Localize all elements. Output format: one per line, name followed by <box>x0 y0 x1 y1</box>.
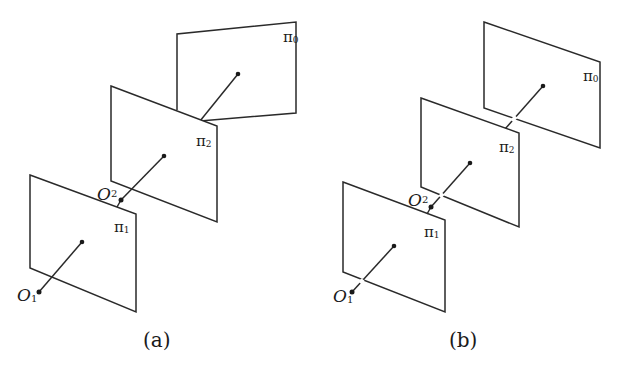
caption-a: (a) <box>143 328 171 352</box>
label-O2-b: O2 <box>408 190 428 210</box>
plane-pi1-b: π1 <box>343 182 445 312</box>
plane-pi1-a: π1 <box>30 175 136 312</box>
caption-b: (b) <box>449 328 477 352</box>
label-O1-b: O1 <box>333 286 353 306</box>
plane-pi0-a: π0 <box>177 22 299 121</box>
panel-b: π0 π2 π1 O1 <box>333 22 600 352</box>
plane-pi2-b: π2 <box>421 98 519 227</box>
plane-pi2-a: π2 <box>111 86 217 222</box>
label-O2-a: O2 <box>97 184 117 204</box>
panel-a: π0 π2 π1 <box>17 22 299 352</box>
label-O1-a: O1 <box>17 285 37 305</box>
figure: π0 π2 π1 <box>0 0 621 372</box>
